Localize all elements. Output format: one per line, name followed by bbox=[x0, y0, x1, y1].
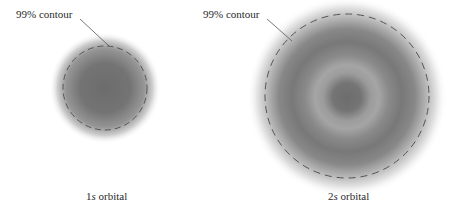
caption-2s: 2s orbital bbox=[328, 190, 369, 202]
caption-1s-suffix: orbital bbox=[96, 190, 127, 202]
orbital-diagram bbox=[0, 0, 450, 216]
orbital-1s bbox=[49, 19, 161, 144]
orbital-2s bbox=[247, 0, 447, 197]
contour-label-1s: 99% contour bbox=[16, 8, 73, 20]
contour-label-2s: 99% contour bbox=[203, 8, 260, 20]
caption-2s-suffix: orbital bbox=[338, 190, 369, 202]
caption-1s: 1s orbital bbox=[86, 190, 127, 202]
electron-density-1s bbox=[49, 32, 161, 144]
electron-density-2s bbox=[247, 0, 447, 197]
